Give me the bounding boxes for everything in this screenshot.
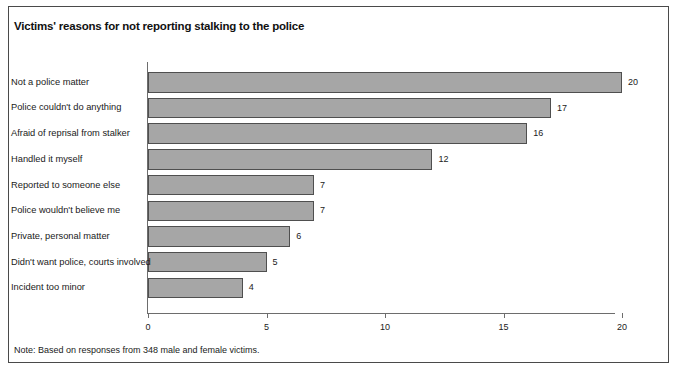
category-label: Private, personal matter <box>11 232 110 241</box>
category-label: Didn't want police, courts involved <box>11 258 151 267</box>
category-label: Not a police matter <box>11 78 89 87</box>
bar <box>148 98 551 119</box>
bar-value-label: 5 <box>273 258 278 267</box>
x-tick-mark <box>267 313 268 318</box>
x-tick-label: 5 <box>264 322 269 332</box>
bar <box>148 278 243 299</box>
plot-area: 05101520 2017161277654 Not a police matt… <box>0 0 661 357</box>
bar <box>148 201 314 222</box>
bar-value-label: 16 <box>533 129 543 138</box>
x-tick-mark <box>622 313 623 318</box>
bar <box>148 252 267 273</box>
chart-note: Note: Based on responses from 348 male a… <box>14 345 260 355</box>
category-label: Handled it myself <box>11 155 82 164</box>
bar <box>148 226 290 247</box>
x-tick-label: 20 <box>617 322 627 332</box>
bar-value-label: 4 <box>249 283 254 292</box>
x-axis-line <box>147 313 615 314</box>
bar-value-label: 17 <box>557 104 567 113</box>
x-tick-mark <box>504 313 505 318</box>
bar-value-label: 6 <box>296 232 301 241</box>
bar-value-label: 12 <box>438 155 448 164</box>
bar-value-label: 20 <box>628 78 638 87</box>
category-label: Police couldn't do anything <box>11 103 121 112</box>
bar <box>148 175 314 196</box>
bar <box>148 72 622 93</box>
bar <box>148 123 527 144</box>
category-label: Afraid of reprisal from stalker <box>11 129 130 138</box>
x-tick-mark <box>385 313 386 318</box>
category-label: Incident too minor <box>11 283 85 292</box>
x-tick-mark <box>148 313 149 318</box>
category-label: Reported to someone else <box>11 181 120 190</box>
bar <box>148 149 432 170</box>
x-tick-label: 15 <box>498 322 508 332</box>
bar-value-label: 7 <box>320 206 325 215</box>
x-tick-label: 10 <box>380 322 390 332</box>
bar-value-label: 7 <box>320 181 325 190</box>
chart-figure: Victims' reasons for not reporting stalk… <box>0 0 677 367</box>
category-label: Police wouldn't believe me <box>11 206 120 215</box>
x-tick-label: 0 <box>145 322 150 332</box>
